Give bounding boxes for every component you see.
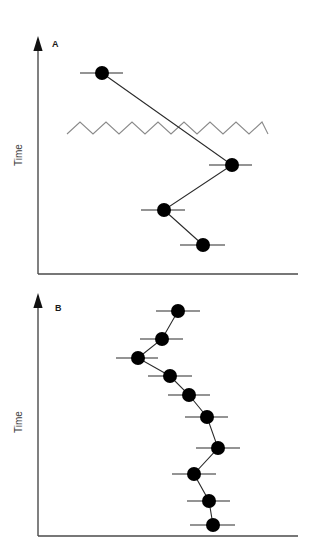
data-point-marker [202, 494, 216, 508]
panel-a-label: A [52, 39, 59, 49]
panel-b-axes [33, 293, 298, 536]
panel-a-y-axis-title: Time [13, 144, 24, 166]
panel-a: A Time [13, 36, 298, 274]
data-point-marker [131, 351, 145, 365]
panel-b-label: B [55, 303, 62, 313]
panel-b: B Time [13, 293, 298, 536]
panel-a-axes [33, 36, 298, 274]
panel-a-markers [95, 66, 239, 252]
panel-b-y-axis-title: Time [13, 411, 24, 433]
data-point-marker [157, 203, 171, 217]
data-point-marker [225, 158, 239, 172]
panel-b-errorbars [116, 311, 240, 525]
data-point-marker [206, 518, 220, 532]
data-point-marker [171, 304, 185, 318]
panel-a-series-line [102, 73, 232, 245]
data-point-marker [182, 388, 196, 402]
data-point-marker [196, 238, 210, 252]
data-point-marker [200, 410, 214, 424]
panel-a-errorbars [80, 73, 252, 245]
figure-svg: A Time B Time [0, 0, 313, 546]
data-point-marker [163, 369, 177, 383]
panel-b-y-axis-arrow-icon [33, 293, 42, 308]
panel-b-markers [131, 304, 225, 532]
figure-container: A Time B Time [0, 0, 313, 546]
panel-a-y-axis-arrow-icon [33, 36, 42, 51]
data-point-marker [187, 467, 201, 481]
data-point-marker [155, 332, 169, 346]
panel-a-zigzag-break-line [67, 122, 268, 134]
data-point-marker [95, 66, 109, 80]
data-point-marker [211, 441, 225, 455]
